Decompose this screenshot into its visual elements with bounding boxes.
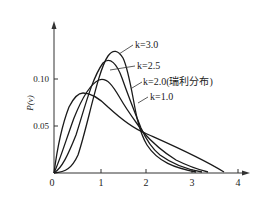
curve-k3-0 bbox=[54, 51, 196, 173]
x-axis-arrow-icon bbox=[242, 171, 250, 176]
annotation-leaders bbox=[110, 45, 148, 103]
annotation-k2-5: k=2.5 bbox=[137, 60, 160, 71]
y-axis-title: P(v) bbox=[25, 95, 35, 112]
annotation-k2-0-rayleigh: k=2.0(瑞利分布) bbox=[143, 76, 213, 88]
x-tick-label: 2 bbox=[144, 177, 149, 188]
chart-canvas: 0.05 0.10 0 1 2 3 4 P(v) k=3.0 k=2.5 k=2… bbox=[0, 0, 263, 201]
x-tick-label: 3 bbox=[190, 177, 195, 188]
annotation-k1-0: k=1.0 bbox=[150, 91, 173, 102]
y-tick-label: 0.10 bbox=[33, 74, 49, 84]
x-tick-label: 1 bbox=[99, 177, 104, 188]
annotation-k3-0: k=3.0 bbox=[135, 39, 158, 50]
y-tick-label: 0.05 bbox=[33, 121, 49, 131]
origin-label: 0 bbox=[50, 177, 55, 188]
weibull-distribution-chart: 0.05 0.10 0 1 2 3 4 P(v) k=3.0 k=2.5 k=2… bbox=[0, 0, 263, 201]
x-tick-label: 4 bbox=[236, 177, 241, 188]
y-axis-arrow-icon bbox=[52, 21, 57, 29]
